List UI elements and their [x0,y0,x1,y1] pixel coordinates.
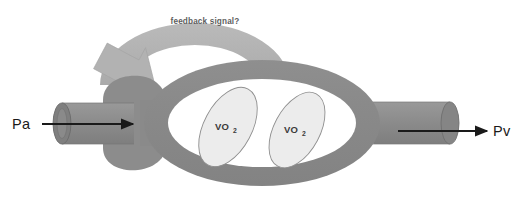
vo2-subscript-right: 2 [302,130,306,137]
vo2-label-left: VO [215,121,229,132]
capillary-chamber [0,0,520,207]
outlet-pressure-label: Pv [493,123,511,139]
vo2-subscript-left: 2 [233,127,237,134]
diagram-canvas: feedback signal? [0,0,520,207]
chamber-wall [0,0,520,207]
vo2-label-right: VO [284,124,298,135]
physiology-diagram: feedback signal? [0,0,520,207]
inlet-pressure-label: Pa [12,116,31,132]
